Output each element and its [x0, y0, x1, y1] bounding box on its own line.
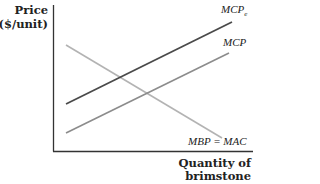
mbp-mac-label: MBP = MAC: [188, 135, 247, 147]
mcpe-label-main: MCP: [221, 3, 244, 15]
mcpe-label-sub: e: [244, 10, 247, 18]
mcp-label-text: MCP: [223, 36, 246, 48]
mcpe-label: MCPe: [221, 3, 247, 18]
mcp-label: MCP: [223, 36, 246, 48]
x-axis-label-line2: brimstone: [179, 170, 252, 183]
mcp-line: [66, 53, 229, 133]
x-axis-label: Quantity of brimstone: [179, 157, 252, 183]
mbp-mac-label-text: MBP = MAC: [188, 135, 247, 147]
